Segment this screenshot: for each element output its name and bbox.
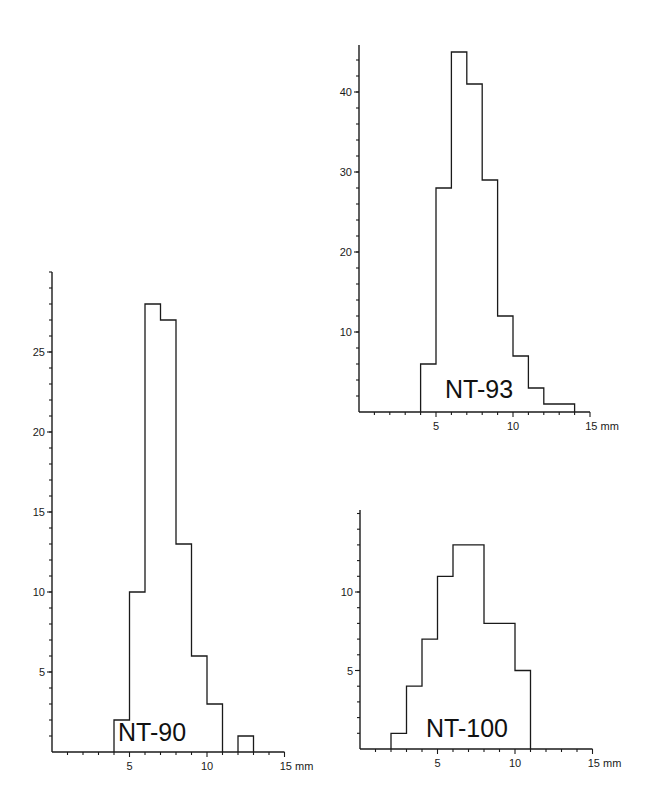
y-tick-label: 25	[33, 346, 45, 358]
histogram-bars	[421, 52, 575, 412]
y-tick-label: 15	[33, 506, 45, 518]
histogram-figure: 51015 mm510152025NT-90 51015 mm10203040N…	[0, 0, 653, 809]
histogram-bars	[238, 736, 254, 752]
x-tick-label: 15 mm	[588, 757, 622, 769]
y-tick-label: 10	[340, 326, 352, 338]
panel-label: NT-93	[445, 375, 513, 403]
x-tick-label: 5	[433, 420, 439, 432]
panel-label: NT-90	[118, 718, 186, 746]
histogram-nt-100: 51015 mm510NT-100	[341, 510, 622, 769]
x-tick-label: 5	[126, 760, 132, 772]
y-tick-label: 40	[340, 86, 352, 98]
y-tick-label: 5	[39, 666, 45, 678]
y-tick-label: 20	[340, 246, 352, 258]
x-tick-label: 10	[201, 760, 213, 772]
y-tick-label: 10	[341, 586, 353, 598]
y-tick-label: 10	[33, 586, 45, 598]
x-tick-label: 10	[509, 757, 521, 769]
x-tick-label: 10	[507, 420, 519, 432]
x-tick-label: 15 mm	[585, 420, 619, 432]
histogram-bars	[114, 304, 223, 752]
panel-label: NT-100	[426, 714, 508, 742]
histogram-nt-93: 51015 mm10203040NT-93	[340, 45, 619, 432]
x-tick-label: 5	[434, 757, 440, 769]
y-tick-label: 5	[347, 665, 353, 677]
y-tick-label: 30	[340, 166, 352, 178]
y-tick-label: 20	[33, 426, 45, 438]
x-tick-label: 15 mm	[280, 760, 314, 772]
histogram-nt-90: 51015 mm510152025NT-90	[33, 272, 314, 772]
